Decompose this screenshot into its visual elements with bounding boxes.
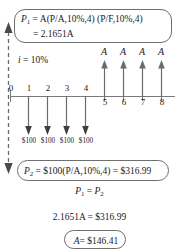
period-label-5: 5 xyxy=(99,97,111,107)
interest-rate-label: i = 10% xyxy=(18,55,48,65)
equality-sub2: 2 xyxy=(100,190,103,197)
cash-flow-diagram-figure: P1 = A(P/A,10%,4) (P/F,10%,4) = 2.1651A … xyxy=(0,0,179,252)
equivalence-connector-arrow xyxy=(2,22,15,174)
outflow-label-period-4: $100 xyxy=(74,137,98,145)
inflow-arrow-period-8 xyxy=(157,60,166,97)
period-label-6: 6 xyxy=(118,97,130,107)
inflow-label-period-5: A xyxy=(98,46,110,57)
equation-p1-line1: P1 = A(P/A,10%,4) (P/F,10%,4) xyxy=(21,13,171,28)
equation-p2-text: P2 = $100(P/A,10%,4) = $316.99 xyxy=(24,163,168,182)
inflow-label-period-8: A xyxy=(155,46,167,57)
outflow-arrow-period-4 xyxy=(81,96,90,135)
equality-operator: = xyxy=(84,186,94,196)
equation-p1-line2: = 2.1651A xyxy=(21,28,171,41)
inflow-label-period-7: A xyxy=(136,46,148,57)
answer-value: = $146.41 xyxy=(80,236,119,246)
inflow-arrow-period-7 xyxy=(138,60,147,97)
equation-box-p1: P1 = A(P/A,10%,4) (P/F,10%,4) = 2.1651A xyxy=(14,9,172,43)
outflow-arrow-period-3 xyxy=(62,96,71,135)
equation-p2-rest: = $100(P/A,10%,4) = $316.99 xyxy=(33,166,151,176)
period-label-3: 3 xyxy=(61,83,73,93)
inflow-arrow-period-5 xyxy=(100,60,109,97)
inflow-label-period-6: A xyxy=(117,46,129,57)
period-label-0: 0 xyxy=(5,83,17,93)
answer-text: A = $146.41 xyxy=(65,231,127,250)
period-label-4: 4 xyxy=(80,83,92,93)
answer-box: A = $146.41 xyxy=(64,230,126,249)
period-label-2: 2 xyxy=(42,83,54,93)
period-label-1: 1 xyxy=(23,83,35,93)
inflow-arrow-period-6 xyxy=(119,60,128,97)
outflow-arrow-period-1 xyxy=(24,96,33,135)
equality-statement: P1 = P2 xyxy=(0,186,179,197)
outflow-arrow-period-2 xyxy=(43,96,52,135)
equation-p1-line1-rest: = A(P/A,10%,4) (P/F,10%,4) xyxy=(30,14,143,24)
equation-box-p2: P2 = $100(P/A,10%,4) = $316.99 xyxy=(17,160,169,181)
timeline-axis xyxy=(10,96,175,97)
period-label-8: 8 xyxy=(156,97,168,107)
solve-step-equation: 2.1651A = $316.99 xyxy=(0,212,179,222)
period-label-7: 7 xyxy=(137,97,149,107)
